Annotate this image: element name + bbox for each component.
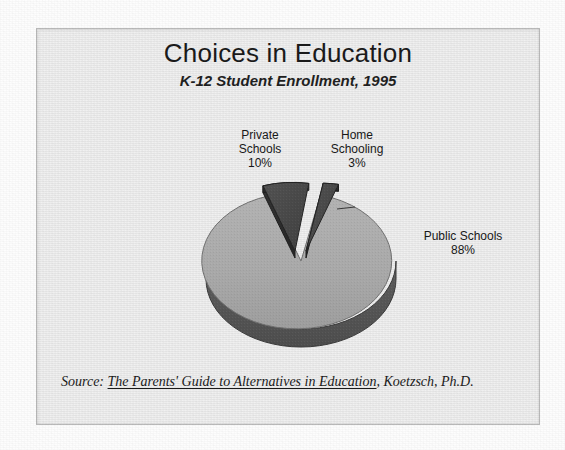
private-schools-percent: 10% [205, 156, 315, 170]
private-schools-line1: Private [241, 128, 278, 142]
slice-label-home-schooling: Home Schooling 3% [302, 128, 412, 170]
chart-inner: Choices in Education K-12 Student Enroll… [37, 29, 539, 424]
slice-label-private-schools: Private Schools 10% [205, 128, 315, 170]
chart-frame: Choices in Education K-12 Student Enroll… [36, 28, 540, 425]
source-prefix: Source: [61, 374, 104, 389]
source-citation: Source: The Parents' Guide to Alternativ… [61, 374, 521, 390]
public-schools-line1: Public Schools [424, 229, 503, 243]
private-schools-line2: Schools [239, 142, 282, 156]
home-schooling-line1: Home [341, 128, 373, 142]
scanned-page: Choices in Education K-12 Student Enroll… [0, 0, 565, 450]
public-schools-percent: 88% [393, 243, 533, 257]
home-schooling-percent: 3% [302, 156, 412, 170]
home-schooling-line2: Schooling [331, 142, 384, 156]
pie-chart-svg [37, 29, 539, 424]
source-attribution: , Koetzsch, Ph.D. [377, 374, 474, 389]
source-book-title: The Parents' Guide to Alternatives in Ed… [108, 374, 377, 389]
slice-label-public-schools: Public Schools 88% [393, 229, 533, 257]
pie-chart [37, 29, 539, 424]
